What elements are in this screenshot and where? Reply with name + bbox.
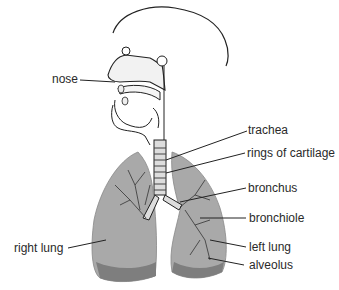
label-nose: nose <box>52 73 78 85</box>
label-bronchus: bronchus <box>248 182 297 194</box>
label-bronchiole: bronchiole <box>249 212 304 224</box>
label-trachea: trachea <box>248 124 288 136</box>
left-lung <box>171 152 226 278</box>
label-alveolus: alveolus <box>249 259 293 271</box>
label-left-lung: left lung <box>249 241 291 253</box>
label-right-lung: right lung <box>14 242 63 254</box>
nasal-cavity <box>108 55 165 90</box>
respiratory-diagram: nose trachea rings of cartilage bronchus… <box>0 0 339 290</box>
label-rings-of-cartilage: rings of cartilage <box>247 147 335 159</box>
leader-nose <box>80 80 115 82</box>
